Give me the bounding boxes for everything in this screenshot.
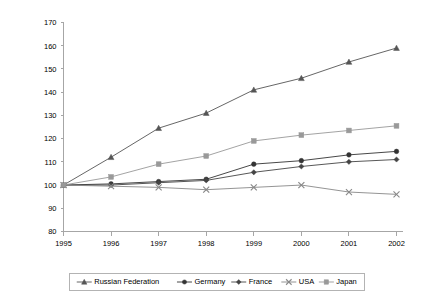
chart-canvas: 8090100110120130140150160170 19951996199… — [0, 0, 434, 303]
series-germany — [61, 149, 399, 187]
diamond-marker — [394, 157, 399, 162]
circle-marker — [394, 149, 399, 154]
x-axis: 19951996199719981999200020012002 — [55, 232, 405, 248]
x-tick-label: 1999 — [245, 239, 262, 248]
y-tick-label: 120 — [44, 134, 57, 143]
triangle-marker — [203, 110, 209, 115]
y-tick-label: 80 — [48, 227, 56, 236]
y-tick-label: 160 — [44, 42, 57, 51]
x-tick-label: 1998 — [198, 239, 215, 248]
chart-legend: Russian FederationGermanyFranceUSAJapan — [70, 274, 365, 291]
y-tick-label: 130 — [44, 111, 57, 120]
square-marker — [61, 183, 66, 188]
x-tick-label: 2000 — [293, 239, 310, 248]
y-tick-label: 90 — [48, 204, 56, 213]
legend-item-label: Russian Federation — [94, 277, 159, 286]
square-marker — [109, 175, 114, 180]
legend-item-label: France — [249, 277, 272, 286]
legend-item-label: Japan — [336, 277, 356, 286]
square-marker — [394, 123, 399, 128]
diamond-marker — [251, 170, 256, 175]
y-tick-label: 150 — [44, 65, 57, 74]
triangle-marker — [394, 45, 400, 50]
y-tick-label: 110 — [45, 158, 57, 167]
square-marker — [299, 133, 304, 138]
square-marker — [204, 154, 209, 159]
series-group — [61, 45, 400, 197]
series-line — [64, 48, 397, 185]
y-tick-group: 8090100110120130140150160170 — [44, 18, 64, 236]
y-tick-label: 170 — [44, 18, 57, 27]
square-marker — [251, 139, 256, 144]
x-tick-label: 2001 — [341, 239, 358, 248]
y-axis: 8090100110120130140150160170 — [44, 18, 64, 236]
x-tick-label: 1995 — [55, 239, 72, 248]
line-chart: 8090100110120130140150160170 19951996199… — [0, 0, 434, 303]
diamond-marker — [346, 159, 351, 164]
circle-marker — [299, 158, 304, 163]
y-tick-label: 100 — [44, 181, 57, 190]
square-marker — [347, 128, 352, 133]
square-marker — [156, 162, 161, 167]
series-russian-federation — [61, 45, 400, 187]
legend-item-label: Germany — [194, 277, 225, 286]
triangle-marker — [108, 154, 114, 159]
circle-marker — [347, 153, 352, 158]
x-tick-group: 19951996199719981999200020012002 — [55, 232, 405, 248]
square-marker — [324, 280, 328, 284]
diamond-marker — [299, 164, 304, 169]
series-line — [64, 151, 397, 185]
x-tick-label: 1996 — [103, 239, 120, 248]
y-tick-label: 140 — [44, 88, 57, 97]
circle-marker — [182, 280, 186, 284]
x-tick-label: 1997 — [150, 239, 167, 248]
series-france — [61, 157, 399, 188]
circle-marker — [251, 162, 256, 167]
legend-item-label: USA — [299, 277, 314, 286]
series-line — [64, 160, 397, 186]
x-tick-label: 2002 — [388, 239, 405, 248]
